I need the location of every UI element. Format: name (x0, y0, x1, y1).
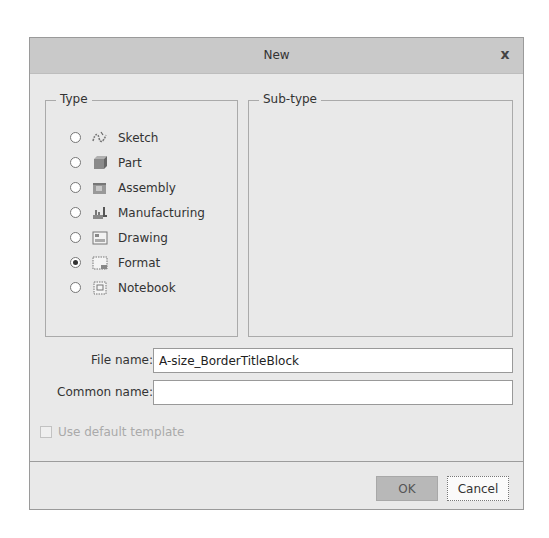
drawing-icon (92, 231, 108, 245)
file-name-input[interactable] (153, 348, 513, 373)
type-label: Sketch (118, 131, 158, 145)
sketch-icon (92, 131, 108, 145)
common-name-label: Common name: (57, 385, 153, 399)
radio-button[interactable] (70, 207, 81, 218)
subtype-group-legend: Sub-type (259, 92, 321, 106)
type-label: Manufacturing (118, 206, 205, 220)
type-list: Sketch Part Assembly (70, 125, 205, 300)
close-button[interactable]: x (497, 46, 513, 62)
format-icon (92, 256, 108, 270)
title-bar[interactable]: New x (30, 38, 523, 74)
file-name-label: File name: (91, 353, 153, 367)
dialog-title: New (30, 48, 523, 62)
type-option-manufacturing[interactable]: Manufacturing (70, 200, 205, 225)
type-label: Assembly (118, 181, 176, 195)
radio-button[interactable] (70, 232, 81, 243)
assembly-icon (92, 181, 108, 195)
use-default-template-label: Use default template (58, 425, 184, 439)
notebook-icon (92, 281, 108, 295)
radio-button[interactable] (70, 282, 81, 293)
type-label: Drawing (118, 231, 168, 245)
type-option-part[interactable]: Part (70, 150, 205, 175)
type-option-sketch[interactable]: Sketch (70, 125, 205, 150)
common-name-row: Common name: (30, 380, 523, 405)
new-dialog: New x Type Sketch Part (29, 37, 524, 510)
use-default-template-option[interactable]: Use default template (40, 425, 184, 439)
radio-button-checked[interactable] (70, 257, 81, 268)
type-option-assembly[interactable]: Assembly (70, 175, 205, 200)
type-label: Format (118, 256, 160, 270)
manufacturing-icon (92, 206, 108, 220)
type-group: Type Sketch Part As (45, 100, 238, 337)
radio-button[interactable] (70, 157, 81, 168)
type-label: Notebook (118, 281, 176, 295)
close-icon: x (500, 46, 509, 62)
type-option-notebook[interactable]: Notebook (70, 275, 205, 300)
common-name-input[interactable] (153, 380, 513, 405)
use-default-template-checkbox[interactable] (40, 426, 52, 438)
type-option-drawing[interactable]: Drawing (70, 225, 205, 250)
radio-button[interactable] (70, 182, 81, 193)
subtype-group: Sub-type (248, 100, 513, 337)
footer-divider (30, 461, 523, 462)
ok-button[interactable]: OK (376, 476, 438, 501)
type-group-legend: Type (56, 92, 92, 106)
radio-button[interactable] (70, 132, 81, 143)
part-icon (92, 156, 108, 170)
file-name-row: File name: (30, 348, 523, 373)
type-option-format[interactable]: Format (70, 250, 205, 275)
type-label: Part (118, 156, 142, 170)
cancel-button[interactable]: Cancel (447, 476, 509, 501)
